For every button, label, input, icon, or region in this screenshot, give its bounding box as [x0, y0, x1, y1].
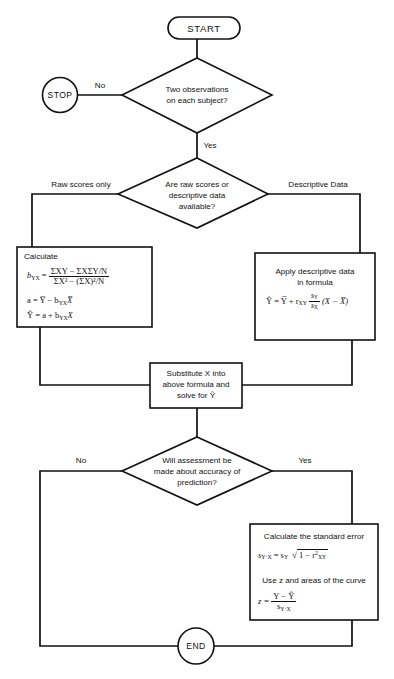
formula-z-denominator-sub: Y·X — [280, 606, 290, 612]
formula-descriptive-frac-num-sub: Y — [314, 294, 318, 300]
formula-standard-error: sY·X = sY √1 − r2XY — [258, 549, 328, 560]
node-decision-assessment-line3: prediction? — [177, 478, 217, 487]
node-decision-data-type-line1: Are raw scores or — [165, 180, 229, 189]
connector-apply-to-substitute — [242, 340, 352, 385]
formula-a: a = Y̅ − bYXX̅ — [27, 296, 72, 306]
node-decision-assessment-line1: Will assessment be — [162, 456, 232, 465]
node-process-descriptive-line1: Apply descriptive data — [275, 267, 355, 276]
formula-se-eq: = s — [274, 550, 284, 560]
connector-decision2-raw-to-calculate — [32, 194, 118, 247]
edge-label-no-observations: No — [95, 81, 106, 90]
flowchart-svg: START STOP Two observations on each subj… — [0, 0, 394, 679]
node-process-substitute-line2: above formula and — [162, 380, 229, 389]
formula-yhat-lhs: Ŷ = a + b — [27, 310, 59, 320]
node-process-substitute-line3: solve for Ŷ — [177, 391, 216, 400]
formula-a-sub: YX — [59, 300, 67, 306]
edge-label-yes-assessment: Yes — [298, 456, 311, 465]
formula-se-r-sub: XY — [318, 554, 326, 560]
formula-descriptive: Ŷ = Y̅ + rXY sY sX (X − X̅) — [266, 292, 348, 311]
formula-yhat-sub: YX — [59, 315, 67, 321]
connector-decision3-no-to-end — [40, 471, 178, 646]
formula-b-denominator: ΣX² − (ΣX)²/N — [49, 277, 110, 286]
formula-z-lhs: z = — [258, 596, 269, 606]
formula-se-radicand: 1 − r — [299, 550, 315, 560]
node-process-standard-error-line2: Use z and areas of the curve — [262, 576, 366, 585]
formula-b-yx: bYX = ΣXY − ΣXΣY/N ΣX² − (ΣX)²/N — [27, 267, 109, 286]
formula-yhat: Ŷ = a + bYXX — [27, 311, 73, 321]
calculate-heading: Calculate — [24, 252, 58, 261]
node-process-standard-error-line1: Calculate the standard error — [264, 532, 365, 541]
node-process-substitute-line1: Substitute X into — [167, 369, 226, 378]
node-decision-assessment-line2: made about accuracy of — [154, 467, 241, 476]
connector-decision3-yes-to-standard-error — [272, 471, 352, 524]
node-decision-data-type-line2: descriptive data — [169, 191, 226, 200]
formula-descriptive-r-sub: XY — [299, 300, 307, 306]
node-start-label: START — [187, 23, 220, 34]
edge-label-raw-scores: Raw scores only — [51, 180, 111, 189]
formula-descriptive-frac-den-sub: X — [314, 305, 318, 311]
formula-a-lhs: a = Y̅ − b — [27, 295, 59, 305]
formula-se-lhs-sub: Y·X — [261, 554, 271, 560]
formula-a-tail: X̅ — [67, 295, 72, 305]
edge-label-yes-observations: Yes — [203, 141, 216, 150]
formula-z: z = Y − Ŷ sY·X — [258, 592, 296, 612]
connector-calculate-to-substitute — [40, 327, 150, 385]
node-decision-data-type-line3: available? — [179, 202, 216, 211]
node-stop-label: STOP — [48, 90, 73, 100]
formula-descriptive-tail: (X − X̅) — [322, 296, 348, 306]
formula-se-radical: √1 − r2XY — [290, 549, 328, 560]
formula-se-sy-sub: Y — [284, 554, 288, 560]
formula-b-sub: YX — [31, 275, 39, 281]
node-decision-observations-line1: Two observations — [166, 85, 229, 94]
connector-decision2-descriptive-to-apply — [268, 194, 360, 253]
flowchart-canvas: START STOP Two observations on each subj… — [0, 0, 394, 679]
formula-b-eq: = — [42, 270, 47, 280]
edge-label-descriptive-data: Descriptive Data — [288, 180, 348, 189]
formula-yhat-tail: X — [68, 310, 73, 320]
formula-descriptive-lhs: Ŷ = Y̅ + r — [266, 296, 299, 306]
node-process-descriptive-line2: in formula — [297, 278, 333, 287]
connector-standard-error-to-end — [214, 620, 352, 646]
node-end-label: END — [186, 641, 205, 651]
edge-label-no-assessment: No — [76, 456, 87, 465]
formula-z-numerator: Y − Ŷ — [271, 592, 296, 602]
node-decision-observations-line2: on each subject? — [166, 96, 228, 105]
